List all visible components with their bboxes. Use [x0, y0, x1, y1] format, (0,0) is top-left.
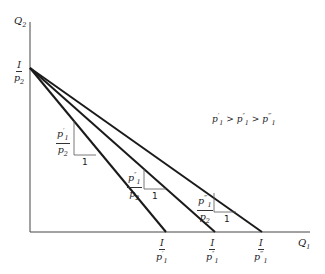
x-intercept-label-3: Ip‴1 [254, 238, 268, 264]
x-intercept-label-2: Ip″1 [206, 238, 219, 264]
slope-triangle-3 [214, 193, 236, 212]
budget-line-diagram [0, 0, 325, 274]
y-axis-label: Q2 [14, 16, 26, 29]
slope-label-3: p‴1p2 [197, 195, 213, 224]
slope-label-2: p″1p2 [127, 172, 142, 201]
run-label-1: 1 [82, 157, 88, 167]
slope-label-1: p′1p2 [56, 128, 70, 157]
x-intercept-label-1: Ip′1 [156, 238, 168, 264]
run-label-2: 1 [152, 191, 158, 201]
run-label-3: 1 [224, 214, 230, 224]
y-intercept-label: Ip2 [14, 60, 24, 85]
price-ordering-annotation: p′1 > p″1 > p‴1 [212, 112, 276, 127]
x-axis-label: Q1 [298, 238, 310, 251]
